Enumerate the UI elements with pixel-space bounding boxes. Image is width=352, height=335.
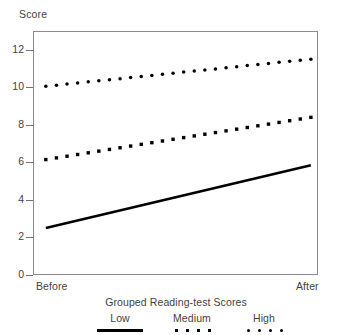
series-marker xyxy=(299,59,303,63)
x-tick-label-after: After xyxy=(296,280,319,292)
series-marker xyxy=(118,146,121,149)
series-marker xyxy=(246,64,250,68)
series-marker xyxy=(277,121,280,124)
series-low xyxy=(46,165,311,228)
series-marker xyxy=(193,69,197,73)
chart-plot-area xyxy=(33,31,318,275)
legend-label-low: Low xyxy=(88,312,152,324)
series-marker xyxy=(129,144,132,147)
series-marker xyxy=(76,153,79,156)
series-marker xyxy=(246,126,249,129)
series-marker xyxy=(309,116,312,119)
series-marker xyxy=(193,134,196,137)
legend-swatch-dot xyxy=(175,329,178,332)
series-marker xyxy=(214,131,217,134)
legend-swatch-dot xyxy=(280,329,283,332)
legend-swatch-dot xyxy=(269,329,272,332)
series-marker xyxy=(288,119,291,122)
legend-item-medium[interactable]: Medium xyxy=(160,312,224,335)
series-high xyxy=(44,57,313,88)
series-medium xyxy=(44,116,312,162)
y-tick-mark xyxy=(26,125,33,126)
y-tick-label: 6 xyxy=(2,156,24,167)
y-tick-mark xyxy=(26,237,33,238)
legend-swatch-dot xyxy=(247,329,250,332)
legend-swatch-dot xyxy=(186,329,189,332)
legend-title: Grouped Reading-test Scores xyxy=(0,296,352,308)
series-marker xyxy=(108,78,112,82)
series-marker xyxy=(171,138,174,141)
series-marker xyxy=(55,156,58,159)
series-marker xyxy=(203,133,206,136)
series-marker xyxy=(44,158,47,161)
series-marker xyxy=(256,124,259,127)
y-tick-mark xyxy=(26,87,33,88)
legend-label-high: High xyxy=(232,312,296,324)
series-marker xyxy=(161,139,164,142)
series-marker xyxy=(76,81,80,85)
series-marker xyxy=(203,68,207,72)
series-marker xyxy=(55,83,59,87)
series-marker xyxy=(182,136,185,139)
series-marker xyxy=(97,79,101,83)
series-marker xyxy=(140,143,143,146)
series-marker xyxy=(224,66,228,70)
series-marker xyxy=(235,65,239,69)
series-marker xyxy=(171,71,175,75)
x-tick-label-before: Before xyxy=(36,280,68,292)
series-marker xyxy=(150,141,153,144)
series-marker xyxy=(108,148,111,151)
round-dots-swatch xyxy=(241,327,287,335)
series-marker xyxy=(256,63,260,67)
series-marker xyxy=(267,62,271,65)
series-marker xyxy=(277,61,281,65)
y-tick-label: 2 xyxy=(2,231,24,242)
legend-swatch-dot xyxy=(258,329,261,332)
y-tick-mark xyxy=(26,275,33,276)
series-marker xyxy=(214,67,218,71)
y-tick-label: 12 xyxy=(2,44,24,55)
series-marker xyxy=(161,73,165,77)
y-axis-title: Score xyxy=(19,8,47,20)
series-marker xyxy=(87,151,90,154)
series-marker xyxy=(97,149,100,152)
series-marker xyxy=(309,57,313,61)
legend-swatch-dot xyxy=(208,329,211,332)
legend-swatch-dot xyxy=(197,329,200,332)
y-tick-label: 10 xyxy=(2,81,24,92)
y-tick-mark xyxy=(26,162,33,163)
series-marker xyxy=(65,154,68,157)
series-marker xyxy=(267,122,270,125)
series-marker xyxy=(224,129,227,132)
y-tick-mark xyxy=(26,200,33,201)
legend-label-medium: Medium xyxy=(160,312,224,324)
y-tick-label: 8 xyxy=(2,119,24,130)
series-line xyxy=(46,165,311,228)
square-dots-swatch xyxy=(169,327,215,335)
y-tick-label: 4 xyxy=(2,194,24,205)
series-marker xyxy=(86,80,90,84)
y-tick-label: 0 xyxy=(2,269,24,280)
series-marker xyxy=(129,76,133,80)
y-tick-mark xyxy=(26,50,33,51)
legend-item-low[interactable]: Low xyxy=(88,312,152,335)
series-marker xyxy=(150,74,154,78)
series-marker xyxy=(182,70,186,74)
series-marker xyxy=(44,85,48,89)
series-marker xyxy=(288,59,292,63)
series-marker xyxy=(139,75,143,79)
series-marker xyxy=(65,82,69,86)
legend-item-high[interactable]: High xyxy=(232,312,296,335)
solid-line-swatch xyxy=(97,327,143,335)
series-marker xyxy=(235,127,238,130)
series-marker xyxy=(299,117,302,120)
series-marker xyxy=(118,77,122,81)
